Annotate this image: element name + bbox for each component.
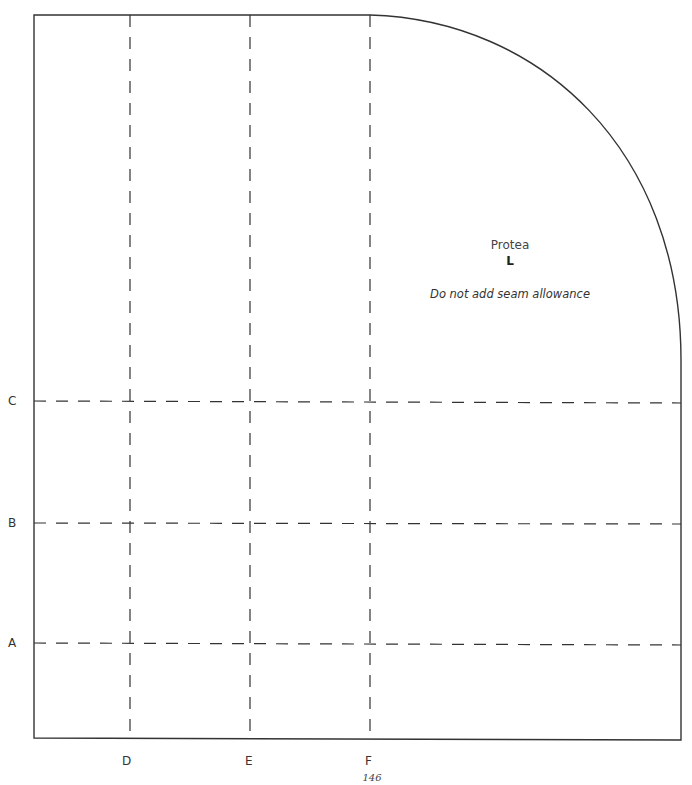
cut-line-c <box>34 401 681 403</box>
line-label-d: D <box>122 754 131 768</box>
pattern-name: Protea <box>450 238 570 252</box>
pattern-outline <box>34 15 681 740</box>
line-label-f: F <box>365 754 372 768</box>
pattern-size: L <box>450 254 570 268</box>
cut-line-a <box>34 643 681 645</box>
page-number: 146 <box>360 772 384 783</box>
seam-allowance-note: Do not add seam allowance <box>400 287 620 301</box>
cut-line-b <box>34 523 681 524</box>
line-label-c: C <box>8 394 16 408</box>
line-label-e: E <box>245 754 253 768</box>
line-label-b: B <box>8 516 16 530</box>
line-label-a: A <box>8 636 16 650</box>
pattern-piece <box>0 0 692 785</box>
